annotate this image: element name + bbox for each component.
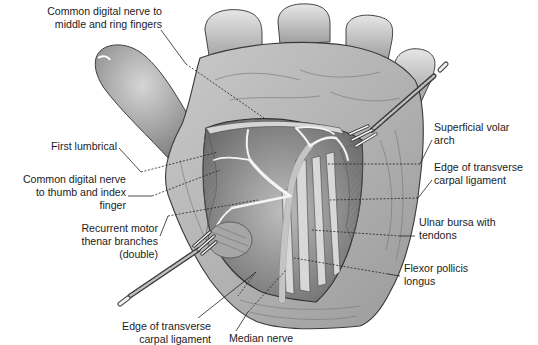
label-edge-transverse-carpal-ligament-right: Edge of transverse carpal ligament [434,161,523,187]
label-flexor-pollicis-longus: Flexor pollicis longus [404,262,468,288]
label-ulnar-bursa-with-tendons: Ulnar bursa with tendons [419,216,496,242]
label-common-digital-nerve-middle-ring: Common digital nerve to middle and ring … [30,5,162,31]
anatomical-figure: Common digital nerve to middle and ring … [0,0,538,345]
label-median-nerve: Median nerve [229,332,293,345]
label-superficial-volar-arch: Superficial volar arch [434,121,509,147]
label-edge-transverse-carpal-ligament-bottom: Edge of transverse carpal ligament [100,320,211,345]
label-common-digital-nerve-thumb-index: Common digital nerve to thumb and index … [4,173,126,212]
label-recurrent-motor-thenar-branches: Recurrent motor thenar branches (double) [60,222,158,261]
label-first-lumbrical: First lumbrical [30,140,117,153]
